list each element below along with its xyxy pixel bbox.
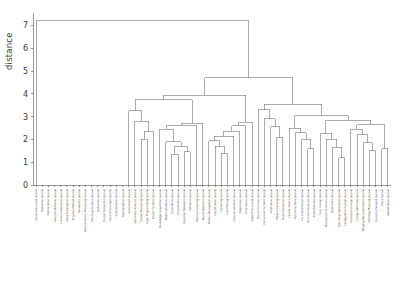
leaf-label: Finite Element Journal [313,189,316,218]
svg-text:4: 4 [23,90,28,99]
leaf-label: Neural Networks Journal [202,189,205,221]
leaf-label: Switching Statements Journal [338,189,341,227]
leaf-label: Function Allocation Journal [60,189,63,224]
leaf-label: Heuristic Methods Journal [54,189,57,222]
leaf-label: Uncertainty Journal [171,189,174,214]
leaf-label: Time Series Journal [245,189,248,214]
leaf-label: Probabilistic Journal [177,189,180,215]
leaf-label: Port Hamiltonian Journal [301,189,304,221]
leaf-label: Simplification Journal [115,189,118,217]
leaf-label: Structural Analysis Journal [307,189,310,223]
leaf-label: Pattern Recognition Journal [208,189,211,225]
leaf-label: Formal Semantics Journal [103,189,106,222]
leaf-label: Merging Representations Journal [362,189,365,231]
leaf-label: Description Logic Journal [109,189,112,221]
leaf-label: Identification Journal [387,189,390,216]
leaf-label: Signal Processing Journal [251,189,254,222]
leaf-label: Reduction Journal [41,189,44,212]
leaf-label: Abduction Journal [97,189,100,212]
leaf-label: Regression Journal [239,189,242,213]
leaf-label: Binary Decision Journal [257,189,260,219]
leaf-label: Machine Learning Journal [196,189,199,222]
leaf-label: Knowledge Acquisition Journal [159,189,162,228]
leaf-label: Hybrid Systems Journal [294,189,297,219]
leaf-label: Conceptual Design Journal [350,189,353,224]
svg-text:3: 3 [23,113,28,122]
svg-text:7: 7 [23,21,28,30]
svg-text:0: 0 [23,181,28,190]
leaf-label: Model Checking Journal [276,189,279,220]
leaf-label: Truss Design Journal [319,189,322,215]
leaf-label: Inference Journal [189,189,192,211]
leaf-label: Concurrent Systems Journal [263,189,266,225]
axis-layer: 01234567Constraint-based JournalReductio… [0,0,407,287]
svg-text:1: 1 [23,158,28,167]
leaf-label: State Estimation Journal [282,189,285,221]
leaf-label: Logic Programming Journal [146,189,149,224]
leaf-label: Classification Journal [214,189,217,216]
leaf-label: Design Rationale Journal [356,189,359,221]
leaf-label: Configuration Design Journal [344,189,347,226]
leaf-label: Planning Systems Journal [91,189,94,222]
leaf-label: Verification Journal [270,189,273,214]
svg-text:5: 5 [23,67,28,76]
leaf-label: Reformulation Journal [122,189,125,217]
leaf-label: Parametric Journal [78,189,81,213]
svg-text:2: 2 [23,135,28,144]
leaf-label: Model Validation Journal [165,189,168,220]
leaf-label: Mechanism Synthesis Journal [325,189,328,227]
leaf-label: Expert Systems Journal [152,189,155,219]
leaf-label: Extra Journal [381,189,384,206]
leaf-label: Data Mining Journal [226,189,229,215]
leaf-label: Using Formulation Journal [66,189,69,223]
leaf-label: Bayesian Networks Journal [183,189,186,224]
leaf-label: Clustering Journal [220,189,223,212]
leaf-label: Constraint-based Journal [35,189,38,221]
leaf-label: Kinematics Journal [331,189,334,213]
leaf-label: Sensitivity Analysis Journal [134,189,137,224]
leaf-label: Dynamic Keyword Journal [375,189,378,222]
leaf-label: Ontology Mapping Journal [368,189,371,223]
dendrogram-figure: distance 01234567Constraint-based Journa… [0,0,407,287]
leaf-label: Nonmonotonic Reasoning Journal [84,189,87,232]
leaf-label: Feature Selection Journal [233,189,236,222]
leaf-label: Control Theory Journal [288,189,291,218]
svg-text:6: 6 [23,44,28,53]
leaf-label: Spatial Reasoning Journal [140,189,143,222]
leaf-label: Property Method Journal [72,189,75,221]
leaf-label: Optimization Journal [47,189,50,216]
leaf-label: Abstraction Journal [128,189,131,214]
